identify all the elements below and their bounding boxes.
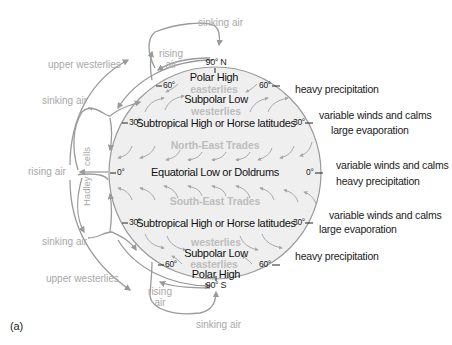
lat-label-left-n60: 60° bbox=[163, 81, 175, 90]
lat-label-right-n60: 60° bbox=[259, 81, 271, 90]
note-n60-heavy-precipitation: heavy precipitation bbox=[295, 84, 379, 95]
note-n30-large-evaporation: large evaporation bbox=[331, 125, 409, 136]
lat-label-right-s60: 60° bbox=[259, 260, 271, 269]
upper-westerlies-bottom-label: upper westerlies bbox=[46, 274, 119, 284]
south-pole-label: 90° S bbox=[206, 281, 227, 290]
south-westerlies-label: westerlies bbox=[191, 237, 241, 248]
global-circulation-diagram: 90° N 90° S Polar High easterlies Subpol… bbox=[0, 0, 452, 345]
hadley-label: Hadley bbox=[82, 176, 92, 206]
cells-label: cells bbox=[82, 147, 92, 166]
lat-label-left-s60: 60° bbox=[165, 260, 177, 269]
note-s60-heavy-precipitation: heavy precipitation bbox=[295, 251, 379, 262]
rising-air-top-label: rising air bbox=[158, 48, 184, 70]
sinking-air-upper-left-label: sinking air bbox=[42, 96, 87, 106]
rising-air-left-label: rising air bbox=[28, 167, 66, 177]
note-n30-variable-winds: variable winds and calms bbox=[319, 110, 432, 121]
panel-label: (a) bbox=[10, 321, 23, 332]
note-s30-large-evaporation: large evaporation bbox=[319, 224, 397, 235]
south-east-trades-label: South-East Trades bbox=[170, 196, 261, 207]
note-eq-variable-winds: variable winds and calms bbox=[336, 160, 449, 171]
sinking-air-lower-left-label: sinking air bbox=[42, 237, 87, 247]
north-westerlies-label: westerlies bbox=[191, 106, 241, 117]
north-subpolar-low-label: Subpolar Low bbox=[184, 94, 248, 105]
north-east-trades-label: North-East Trades bbox=[171, 140, 260, 151]
rising-air-bottom-label: rising air bbox=[147, 286, 173, 308]
south-subtropical-high-label: Subtropical High or Horse latitudes bbox=[136, 218, 295, 229]
lat-label-right-0: 0° bbox=[306, 168, 314, 177]
note-eq-heavy-precipitation: heavy precipitation bbox=[336, 176, 420, 187]
lat-label-left-s30: 30° bbox=[129, 218, 141, 227]
south-polar-high-label: Polar High bbox=[192, 269, 240, 280]
lat-label-left-n30: 30° bbox=[129, 118, 141, 127]
equatorial-low-label: Equatorial Low or Doldrums bbox=[151, 167, 279, 178]
upper-westerlies-top-label: upper westerlies bbox=[48, 60, 121, 70]
north-subtropical-high-label: Subtropical High or Horse latitudes bbox=[136, 118, 295, 129]
sinking-air-bottom-label: sinking air bbox=[196, 320, 241, 330]
north-pole-label: 90° N bbox=[205, 58, 226, 67]
lat-label-left-0: 0° bbox=[117, 168, 125, 177]
note-s30-variable-winds: variable winds and calms bbox=[329, 210, 442, 221]
sinking-air-top-label: sinking air bbox=[198, 18, 243, 28]
north-polar-high-label: Polar High bbox=[190, 72, 238, 83]
lat-label-right-s30: 30° bbox=[293, 218, 305, 227]
lat-label-right-n30: 30° bbox=[293, 118, 305, 127]
